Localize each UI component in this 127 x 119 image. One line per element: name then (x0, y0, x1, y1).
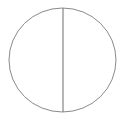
circle-diagram (0, 0, 127, 119)
